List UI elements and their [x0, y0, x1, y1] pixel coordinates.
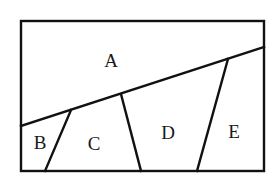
c-d-divider-line — [121, 94, 141, 171]
region-label-e: E — [228, 121, 240, 142]
region-label-b: B — [34, 132, 47, 153]
region-label-d: D — [161, 122, 175, 143]
region-label-c: C — [88, 133, 101, 154]
region-label-a: A — [104, 50, 118, 71]
b-c-divider-line — [45, 110, 71, 171]
d-e-divider-line — [197, 59, 228, 171]
outer-rectangle — [21, 21, 264, 171]
region-diagram: A B C D E — [0, 0, 278, 177]
